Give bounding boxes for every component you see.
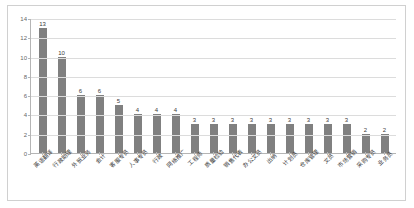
bar-value-label: 2: [383, 127, 386, 133]
bar-value-label: 13: [39, 21, 46, 27]
y-axis: 02468101214: [8, 6, 30, 154]
bar[interactable]: [229, 124, 237, 153]
bar[interactable]: [305, 124, 313, 153]
x-axis-label-slot: 仓库管理: [299, 155, 318, 205]
x-axis-label-slot: 质量检验: [203, 155, 222, 205]
y-axis-tick-mark: [28, 58, 31, 59]
y-axis-tick-mark: [28, 77, 31, 78]
x-axis-label-slot: 客服专员: [108, 155, 127, 205]
x-axis-label-slot: 文员: [318, 155, 337, 205]
bar[interactable]: [58, 57, 66, 153]
bar[interactable]: [191, 124, 199, 153]
x-axis-label-slot: 办公文员: [242, 155, 261, 205]
bar-value-label: 3: [307, 117, 310, 123]
x-axis-label-slot: 采购专员: [356, 155, 375, 205]
x-axis-tick-label: 文员: [323, 153, 335, 165]
x-axis-tick-label: 会计: [94, 153, 106, 165]
x-axis-label-slot: 出纳: [261, 155, 280, 205]
gridline: [31, 19, 396, 20]
x-axis-label-slot: 英语翻译: [32, 155, 51, 205]
gridline: [31, 77, 396, 78]
y-axis-tick-label: 0: [24, 151, 27, 157]
bar-value-label: 3: [231, 117, 234, 123]
gridline: [31, 96, 396, 97]
x-axis-label-slot: 市场营销: [337, 155, 356, 205]
bar[interactable]: [248, 124, 256, 153]
gridline: [31, 115, 396, 116]
bar-value-label: 4: [174, 107, 177, 113]
bar[interactable]: [381, 134, 389, 153]
y-axis-tick-label: 8: [24, 74, 27, 80]
x-axis-labels: 英语翻译行政助理外贸业务会计客服专员人事专员行政网络推广工程师质量检验销售代表办…: [30, 155, 396, 205]
x-axis-label-slot: 行政助理: [51, 155, 70, 205]
x-axis-label-slot: 销售代表: [222, 155, 241, 205]
x-axis-label-slot: 行政: [146, 155, 165, 205]
y-axis-tick-label: 4: [24, 112, 27, 118]
gridline: [31, 135, 396, 136]
y-axis-tick-label: 10: [20, 55, 27, 61]
y-axis-tick-mark: [28, 115, 31, 116]
bar-value-label: 5: [117, 98, 120, 104]
x-axis-label-slot: 业务员: [375, 155, 394, 205]
bar-value-label: 10: [58, 50, 65, 56]
bar-value-label: 3: [193, 117, 196, 123]
y-axis-tick-label: 12: [20, 35, 27, 41]
x-axis-tick-label: 行政: [152, 153, 164, 165]
bar-value-label: 4: [136, 107, 139, 113]
x-axis-label-slot: 工程师: [184, 155, 203, 205]
y-axis-tick-mark: [28, 38, 31, 39]
bar-value-label: 3: [212, 117, 215, 123]
y-axis-tick-label: 6: [24, 93, 27, 99]
x-axis-label-slot: 会计: [89, 155, 108, 205]
y-axis-tick-mark: [28, 135, 31, 136]
bar[interactable]: [343, 124, 351, 153]
bar[interactable]: [286, 124, 294, 153]
bar-value-label: 2: [364, 127, 367, 133]
y-axis-tick-label: 2: [24, 132, 27, 138]
bar[interactable]: [96, 95, 104, 153]
bar-value-label: 4: [155, 107, 158, 113]
bar[interactable]: [210, 124, 218, 153]
bar-value-label: 3: [326, 117, 329, 123]
y-axis-tick-mark: [28, 19, 31, 20]
bar-value-label: 6: [79, 88, 82, 94]
chart-frame: 02468101214 131066544433333333322 英语翻译行政…: [7, 5, 406, 201]
gridline: [31, 38, 396, 39]
bar-value-label: 3: [269, 117, 272, 123]
y-axis-tick-mark: [28, 96, 31, 97]
x-axis-label-slot: 网络推广: [165, 155, 184, 205]
bar[interactable]: [362, 134, 370, 153]
y-axis-tick-label: 14: [20, 16, 27, 22]
plot-area: 131066544433333333322: [30, 19, 396, 154]
bar-value-label: 3: [345, 117, 348, 123]
x-axis-label-slot: 外贸业务: [70, 155, 89, 205]
x-axis-label-slot: 计划员: [280, 155, 299, 205]
x-axis-label-slot: 人事专员: [127, 155, 146, 205]
bar-value-label: 3: [288, 117, 291, 123]
bar[interactable]: [324, 124, 332, 153]
bar[interactable]: [115, 105, 123, 153]
gridline: [31, 58, 396, 59]
bar-value-label: 3: [250, 117, 253, 123]
bar-value-label: 6: [98, 88, 101, 94]
x-axis-tick-label: 出纳: [266, 153, 278, 165]
bar[interactable]: [267, 124, 275, 153]
bar[interactable]: [77, 95, 85, 153]
